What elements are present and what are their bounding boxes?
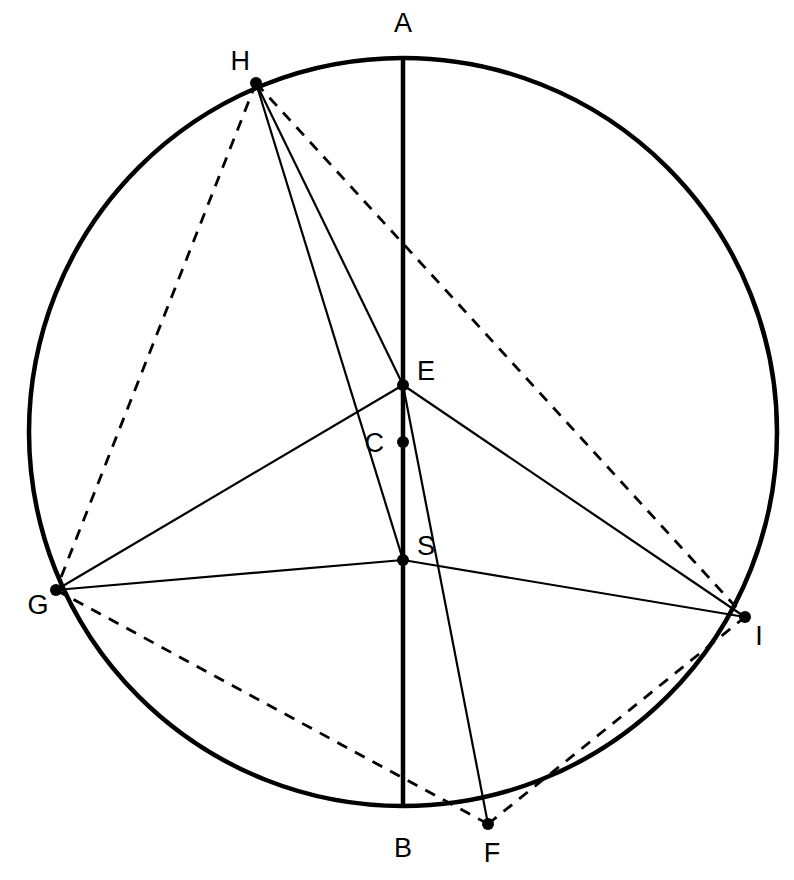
chord-E-F	[403, 385, 488, 824]
vertex-label-c: C	[365, 428, 385, 458]
vertex-label-a: A	[394, 8, 412, 38]
vertex-dot-h	[250, 77, 262, 89]
chord-H-I	[256, 83, 745, 617]
vertex-label-i: I	[755, 621, 763, 651]
vertex-dot-s	[397, 554, 409, 566]
vertex-dot-i	[739, 611, 751, 623]
chord-H-E	[256, 83, 403, 385]
vertex-label-g: G	[27, 590, 48, 620]
vertex-label-s: S	[417, 531, 435, 561]
geometry-canvas: ABCESFGHI	[0, 0, 794, 880]
chord-G-S	[56, 560, 403, 590]
chord-G-F	[56, 590, 488, 824]
chord-E-G	[56, 385, 403, 590]
vertex-dot-e	[397, 379, 409, 391]
chord-F-I	[488, 617, 745, 824]
vertex-label-h: H	[231, 46, 251, 76]
chord-H-S	[256, 83, 403, 560]
geometry-diagram: ABCESFGHI	[0, 0, 794, 880]
vertex-label-b: B	[394, 833, 412, 863]
vertex-dot-g	[50, 584, 62, 596]
chord-H-G	[56, 83, 256, 590]
vertex-label-layer: ABCESFGHI	[27, 8, 762, 868]
vertex-dot-f	[482, 818, 494, 830]
vertex-dot-c	[397, 436, 409, 448]
chord-S-I	[403, 560, 745, 617]
vertex-label-e: E	[417, 356, 435, 386]
vertex-label-f: F	[484, 838, 501, 868]
chord-E-I	[403, 385, 745, 617]
